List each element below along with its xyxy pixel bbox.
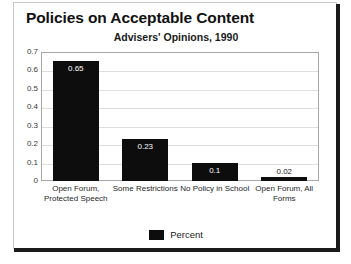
chart-card: Policies on Acceptable Content Advisers'… <box>13 2 337 249</box>
bar-group: 0.1 <box>192 52 238 181</box>
frame-edge-bottom <box>14 248 340 252</box>
frame-edge-right <box>336 4 340 252</box>
bar-value-label: 0.65 <box>53 64 99 73</box>
x-axis-tick-label-line: Open Forum, All <box>250 184 320 194</box>
x-axis-tick-label-line: Forms <box>250 194 320 204</box>
y-axis-tick-label: 0.5 <box>14 85 38 93</box>
y-axis-tick-label: 0.7 <box>14 48 38 56</box>
x-axis-tick-label: Open Forum, AllForms <box>250 184 320 204</box>
bar-1[interactable] <box>53 61 99 181</box>
x-axis-tick-label: No Policy in School <box>180 184 250 194</box>
x-axis-tick-label-line: Open Forum, <box>41 184 111 194</box>
x-axis-tick-labels: Open Forum,Protected SpeechSome Restrict… <box>41 184 319 212</box>
x-axis-tick-label: Some Restrictions <box>111 184 181 194</box>
y-axis-tick-label: 0.2 <box>14 140 38 148</box>
y-axis-tick-label: 0.1 <box>14 159 38 167</box>
legend-label-percent: Percent <box>170 229 203 240</box>
x-axis-tick-label-line: Protected Speech <box>41 194 111 204</box>
bars-layer: 0.650.230.10.02 <box>41 52 319 181</box>
x-axis-tick-label-line: Some Restrictions <box>111 184 181 194</box>
bar-value-label: 0.1 <box>192 166 238 175</box>
bar-value-label: 0.02 <box>261 167 307 176</box>
chart-subtitle: Advisers' Opinions, 1990 <box>14 31 338 43</box>
x-axis-tick-label-line: No Policy in School <box>180 184 250 194</box>
legend-swatch-percent <box>149 230 164 240</box>
chart-legend: Percent <box>14 229 338 240</box>
x-axis-tick-label: Open Forum,Protected Speech <box>41 184 111 204</box>
bar-group: 0.65 <box>53 52 99 181</box>
y-axis-tick-label: 0 <box>14 177 38 185</box>
bar-group: 0.23 <box>122 52 168 181</box>
y-axis-tick-label: 0.4 <box>14 103 38 111</box>
y-axis-tick-label: 0.3 <box>14 122 38 130</box>
chart-title: Policies on Acceptable Content <box>26 9 254 27</box>
bar-value-label: 0.23 <box>122 142 168 151</box>
bar-4[interactable] <box>261 177 307 181</box>
bar-group: 0.02 <box>261 52 307 181</box>
y-axis-tick-label: 0.6 <box>14 66 38 74</box>
